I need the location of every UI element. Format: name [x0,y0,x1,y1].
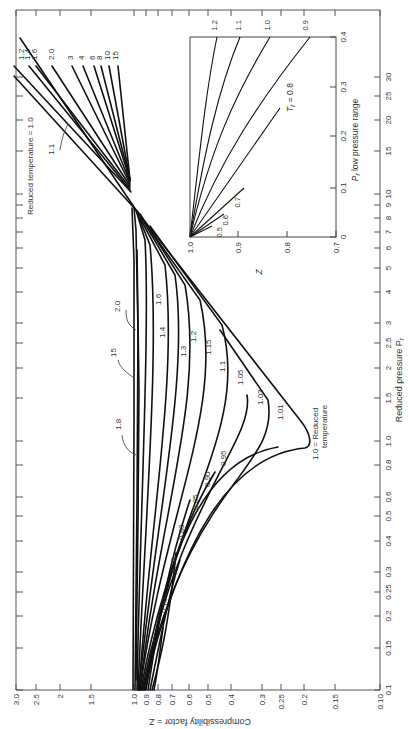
curve-label: 1.6 [30,48,39,60]
z-tick-label: 0.25 [277,693,286,709]
inset-z-tick-label: 0.7 [332,241,341,253]
inset-pr-tick-label: 0.1 [339,182,348,194]
top-frame-ticks [16,10,380,16]
curve-label: 1.2 [189,330,198,342]
curve-label: 2.0 [113,300,122,312]
z-tick-label: 1.0 [130,693,139,705]
z-tick-label: 0.5 [204,693,213,705]
inset-curve-label: 0.5 [215,227,224,237]
pr-tick-label: 15 [384,146,393,155]
pr-tick-label: 9 [384,202,393,207]
inset-curve-label: 0.6 [221,215,230,225]
pr-tick-label: 10 [384,189,393,198]
pr-tick-label: 3 [384,320,393,325]
curve-label: 1.1 [218,360,227,372]
inset-pr-tick-label: 0.4 [339,31,348,43]
curve-label: 1.8 [114,418,123,430]
inset-curve-label: 1.1 [234,20,243,30]
z-tick-label: 3.0 [12,693,21,705]
annotation-reduced-temperature-top: Reduced temperature = 1.0 [26,117,35,215]
pr-tick-label: 0.5 [384,510,393,522]
curve-label: 0.80 [177,524,186,540]
z-tick-label: 2.5 [32,693,41,705]
pr-tick-label: 0.6 [384,491,393,503]
curve-label: 1.3 [179,345,188,357]
pr-tick-label: 0.3 [384,566,393,578]
curve-label: 1.01 [276,404,285,420]
curve-label: 0.95 [219,450,228,466]
pr-tick-label: 0.8 [384,459,393,471]
curve-label: 1.15 [204,339,213,355]
curve-label: 1.4 [158,326,167,338]
z-tick-label: 0.8 [154,693,163,705]
annotation-reduced-temperature-bottom-1: 1.0 = Reduced [311,408,320,460]
inset-y-title: Z [254,269,264,276]
inset-curve-label: 0.7 [233,197,242,207]
pr-tick-label: 2.5 [384,337,393,349]
pr-tick-label: 0.1 [384,684,393,696]
pr-tick-label: 1.5 [384,392,393,404]
curve-label: 0.85 [191,494,200,510]
curve-label: 15 [111,51,120,60]
pr-tick-label: 30 [384,72,393,81]
pr-tick-label: 4 [384,289,393,294]
curve-label: 1.6 [154,293,163,305]
pr-tick-label: 20 [384,115,393,124]
pr-tick-label: 0.25 [384,584,393,600]
pr-axis-ticks: 0.10.150.20.250.30.40.50.60.81.01.522.53… [374,72,393,696]
x-axis-title: Reduced pressure Pr [394,337,405,422]
curve-label: 0.70 [160,597,169,613]
curve-label: 1.03 [256,389,265,405]
inset-curve-label: 0.9 [301,20,310,30]
left-frame-ticks [16,77,23,690]
z-tick-label: 0.2 [300,693,309,705]
z-tick-label: 1.5 [87,693,96,705]
compressibility-chart: 3.02.521.51.00.90.80.70.60.50.40.30.250.… [0,0,412,729]
inset-x-title: Pr low pressure range [350,98,361,181]
curve-label: 15 [109,348,118,357]
curve-label: 4 [77,55,86,60]
annotation-reduced-temperature-bottom-2: temperature [320,404,329,448]
pr-tick-label: 8 [384,215,393,220]
pr-tick-label: 25 [384,91,393,100]
curve-tr-1.4-upper [29,66,130,190]
z-tick-label: 0.7 [168,693,177,705]
inset-curve-label: 1.0 [263,20,272,30]
z-tick-label: 0.6 [185,693,194,705]
curve-label: 2.0 [47,48,56,60]
pr-tick-label: 2 [384,365,393,370]
inset-z-tick-label: 0.9 [234,241,243,253]
curve-label: 3 [66,55,75,60]
z-axis-ticks: 3.02.521.51.00.90.80.70.60.50.40.30.250.… [12,684,385,710]
pr-tick-label: 7 [384,229,393,234]
inset-curve-label: 1.2 [210,20,219,30]
pr-tick-label: 1.0 [384,435,393,447]
y-axis-title: Compressibility factor = Z [149,717,251,727]
inset-z-tick-label: 0.8 [283,241,292,253]
pr-tick-label: 5 [384,265,393,270]
curve-label: 0.75 [169,557,178,573]
z-tick-label: 0.15 [331,693,340,709]
z-tick-label: 2 [56,693,65,698]
pr-tick-label: 6 [384,245,393,250]
curve-label: 0.90 [203,471,212,487]
z-tick-label: 0.4 [227,693,236,705]
curve-tr-1.0-upper [20,38,136,210]
annotation-tr-0.8: Tr = 0.8 [285,83,296,112]
z-tick-label: 0.9 [142,693,151,705]
curve-label: 1.05 [236,369,245,385]
inset-pr-tick-label: 0.2 [339,130,348,142]
curve-tr-15 [132,208,134,690]
z-tick-label: 0.3 [258,693,267,705]
curve-label: 1.1 [47,143,56,155]
pr-tick-label: 0.15 [384,640,393,656]
inset-pr-tick-label: 0.3 [339,81,348,93]
inset-pr-tick-label: 0 [339,234,348,239]
inset-z-tick-label: 1.0 [186,241,195,253]
pr-tick-label: 0.2 [384,610,393,622]
pr-tick-label: 0.4 [384,535,393,547]
